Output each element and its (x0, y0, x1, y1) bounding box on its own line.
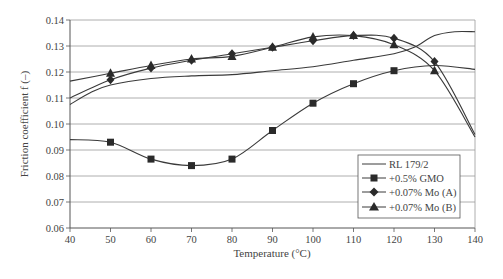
series-line (70, 65, 475, 165)
square-marker-icon (229, 156, 236, 163)
data-series (70, 31, 475, 170)
x-axis-title: Temperature (°C) (233, 247, 311, 260)
x-tick-label: 120 (386, 234, 402, 245)
x-tick-label: 110 (346, 234, 361, 245)
legend-label: +0.07% Mo (A) (389, 187, 457, 199)
legend-label: RL 179/2 (389, 159, 429, 170)
y-tick-label: 0.11 (46, 93, 64, 104)
square-marker-icon (107, 139, 114, 146)
square-marker-icon (148, 156, 155, 163)
legend-label: +0.07% Mo (B) (389, 202, 456, 214)
y-tick-label: 0.09 (46, 145, 64, 156)
x-tick-label: 40 (65, 234, 76, 245)
x-tick-label: 90 (267, 234, 278, 245)
square-marker-icon (269, 127, 276, 134)
x-tick-label: 140 (467, 234, 483, 245)
x-tick-label: 80 (227, 234, 238, 245)
square-marker-icon (350, 80, 357, 87)
x-tick-label: 60 (146, 234, 157, 245)
x-tick-label: 70 (186, 234, 197, 245)
x-axis-ticks: 405060708090100110120130140 (65, 228, 483, 245)
y-axis-ticks: 0.060.070.080.090.100.110.120.130.14 (46, 15, 70, 234)
square-marker-icon (188, 162, 195, 169)
square-marker-icon (310, 100, 317, 107)
legend: RL 179/2 +0.5% GMO +0.07% Mo (A) +0.07% … (358, 155, 460, 218)
y-tick-label: 0.14 (46, 15, 65, 26)
y-tick-label: 0.10 (46, 119, 64, 130)
y-tick-label: 0.08 (46, 171, 64, 182)
y-axis-title: Friction coefficient f (–) (18, 70, 31, 177)
friction-chart: 0.060.070.080.090.100.110.120.130.14 405… (0, 0, 503, 279)
y-tick-label: 0.12 (46, 67, 64, 78)
x-tick-label: 50 (105, 234, 116, 245)
y-tick-label: 0.07 (46, 197, 64, 208)
legend-label: +0.5% GMO (389, 173, 444, 184)
square-marker-icon (391, 67, 398, 74)
y-tick-label: 0.06 (46, 223, 64, 234)
square-marker-icon (371, 175, 378, 182)
x-tick-label: 130 (427, 234, 443, 245)
y-tick-label: 0.13 (46, 41, 64, 52)
x-tick-label: 100 (305, 234, 321, 245)
series--0-07-mo-b- (70, 31, 475, 137)
